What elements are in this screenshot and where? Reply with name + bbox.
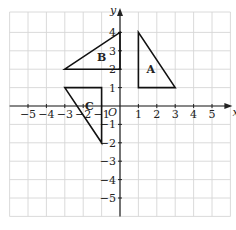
y-tick-label: 3 [109,45,116,58]
tick-labels: xyO−5−4−3−2−1123454321−1−2−3−4−5 [20,4,236,205]
y-tick-label: −3 [100,155,116,168]
triangle-label: A [145,63,155,76]
coordinate-grid: xyO−5−4−3−2−1123454321−1−2−3−4−5 ABC [0,0,236,230]
y-tick-label: −4 [100,174,116,187]
x-tick-label: −5 [20,108,36,121]
x-tick-label: 4 [190,108,197,121]
y-tick-label: 1 [109,82,116,95]
x-tick-label: −4 [38,108,54,121]
y-tick-label: −5 [100,192,116,205]
x-axis-arrow-icon [224,103,232,109]
x-tick-label: 2 [153,108,160,121]
triangle-label: B [97,51,106,64]
triangle-label: C [85,100,94,113]
y-axis-label: y [109,4,117,17]
x-tick-label: −3 [57,108,73,121]
x-tick-label: 3 [172,108,179,121]
x-axis-label: x [232,106,236,119]
x-tick-label: 1 [135,108,142,121]
x-tick-label: 5 [209,108,216,121]
